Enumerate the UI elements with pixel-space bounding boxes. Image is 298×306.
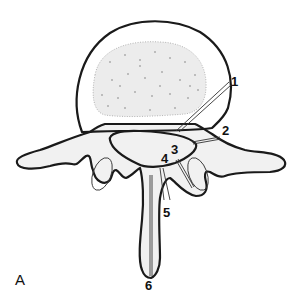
panel-label: A [15,272,25,287]
label-4: 4 [161,152,168,165]
label-6: 6 [145,279,152,292]
cancellous-bone [93,42,206,117]
vertebra-diagram [0,0,298,306]
label-3: 3 [171,143,178,156]
label-2: 2 [222,124,229,137]
posterior-arch [17,124,285,278]
label-5: 5 [163,206,170,219]
label-1: 1 [231,75,238,88]
vertebral-body [77,21,231,132]
